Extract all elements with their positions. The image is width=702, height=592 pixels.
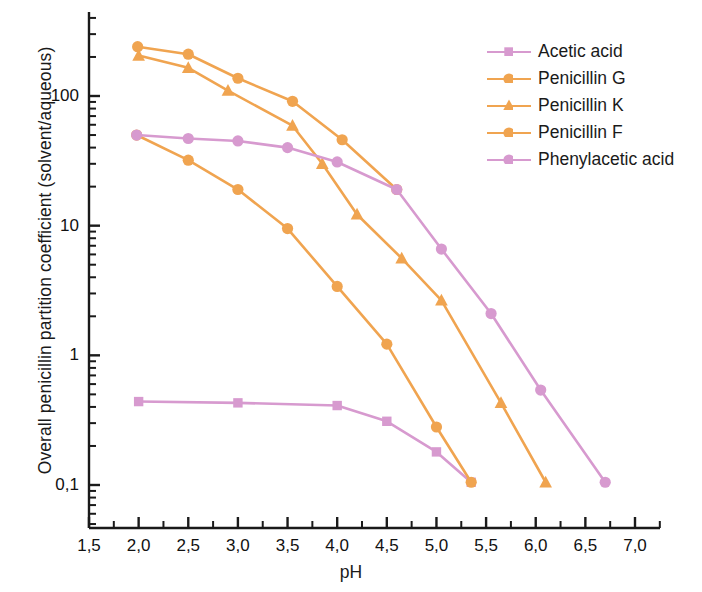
data-point [382,417,391,426]
y-tick-label: 1 [70,345,79,365]
legend-label: Penicillin F [538,122,623,143]
x-tick-label: 5,5 [474,536,498,556]
data-point [432,447,441,456]
data-point [287,96,298,107]
data-point [282,142,293,153]
data-point [232,184,243,195]
legend-label: Phenylacetic acid [538,149,674,170]
data-point [183,155,194,166]
y-tick-label: 10 [60,216,79,236]
data-point [132,41,143,52]
legend-swatch [487,44,531,60]
y-tick-label: 0,1 [55,475,79,495]
data-point [232,135,243,146]
data-point [282,223,293,234]
legend-marker-square [502,45,513,56]
data-point [495,396,508,408]
x-tick-label: 2,0 [127,536,151,556]
legend-label: Penicillin G [538,68,626,89]
x-tick-label: 2,5 [176,536,200,556]
data-point [233,398,242,407]
chart-figure: Overall penicillin partition coefficient… [0,0,702,592]
legend-swatch [487,152,531,168]
legend-marker-circle [502,126,513,137]
data-point [222,84,235,96]
data-point [134,397,143,406]
series-penicillin-f [131,129,477,487]
data-point [131,129,142,140]
series-acetic-acid [134,397,476,487]
legend-item-phenylacetic-acid[interactable]: Phenylacetic acid [487,146,702,173]
data-point [232,73,243,84]
x-axis-title: pH [0,562,702,583]
series-phenylacetic-acid [131,129,611,487]
data-point [332,401,341,410]
legend-marker-circle [502,72,513,83]
data-point [183,49,194,60]
y-axis-ticks [89,18,100,524]
y-tick-label: 100 [51,86,79,106]
data-point [466,477,477,488]
x-tick-label: 6,0 [524,536,548,556]
data-point [539,476,552,488]
data-point [600,477,611,488]
x-tick-label: 1,5 [77,536,101,556]
legend-item-penicillin-g[interactable]: Penicillin G [487,65,702,92]
x-tick-label: 5,0 [425,536,449,556]
legend-marker-triangle [502,99,513,110]
x-tick-label: 6,5 [574,536,598,556]
data-point [436,243,447,254]
data-point [332,156,343,167]
data-point [431,421,442,432]
legend-item-acetic-acid[interactable]: Acetic acid [487,38,702,65]
data-point [183,133,194,144]
legend-label: Penicillin K [538,95,624,116]
x-tick-label: 7,0 [623,536,647,556]
x-tick-label: 4,0 [325,536,349,556]
legend-swatch [487,98,531,114]
legend-label: Acetic acid [538,41,623,62]
data-point [535,384,546,395]
x-tick-label: 4,5 [375,536,399,556]
data-point [381,339,392,350]
legend-swatch [487,71,531,87]
legend-item-penicillin-k[interactable]: Penicillin K [487,92,702,119]
data-point [391,184,402,195]
legend-marker-circle [502,153,513,164]
x-tick-label: 3,5 [276,536,300,556]
data-point [337,134,348,145]
legend: Acetic acidPenicillin GPenicillin KPenic… [487,38,702,173]
x-tick-label: 3,0 [226,536,250,556]
x-axis-ticks [89,517,660,528]
legend-swatch [487,125,531,141]
data-point [332,281,343,292]
data-point [286,119,299,131]
legend-item-penicillin-f[interactable]: Penicillin F [487,119,702,146]
data-point [485,308,496,319]
